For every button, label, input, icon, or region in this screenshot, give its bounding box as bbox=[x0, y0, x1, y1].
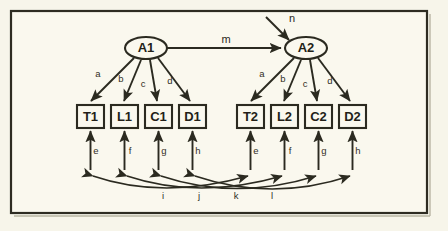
edge-label-g-left: g bbox=[161, 145, 166, 156]
edge-label-e-right: e bbox=[253, 145, 258, 156]
edge-label-f-right: f bbox=[289, 145, 292, 156]
node-label-d1: D1 bbox=[184, 109, 201, 124]
node-label-c1: C1 bbox=[150, 109, 167, 124]
edge-label-f-left: f bbox=[129, 145, 132, 156]
diagram-canvas: m n a b c d a b c d bbox=[0, 0, 448, 231]
node-label-a1: A1 bbox=[138, 40, 155, 55]
edge-label-b-right: b bbox=[280, 73, 285, 84]
path-diagram-figure: m n a b c d a b c d bbox=[0, 0, 448, 231]
edge-label-e-left: e bbox=[93, 145, 98, 156]
edge-label-h-left: h bbox=[195, 145, 200, 156]
node-label-c2: C2 bbox=[310, 109, 327, 124]
observed-node-c2[interactable]: C2 bbox=[305, 105, 332, 128]
edge-label-h-right: h bbox=[355, 145, 360, 156]
observed-node-d1[interactable]: D1 bbox=[179, 105, 206, 128]
edge-label-k: k bbox=[234, 190, 239, 201]
node-label-t1: T1 bbox=[83, 109, 98, 124]
edge-label-d-left: d bbox=[167, 75, 172, 86]
node-label-a2: A2 bbox=[298, 40, 315, 55]
observed-node-d2[interactable]: D2 bbox=[339, 105, 366, 128]
edge-label-d-right: d bbox=[327, 75, 332, 86]
edge-label-c-right: c bbox=[303, 78, 308, 89]
observed-node-t2[interactable]: T2 bbox=[237, 105, 264, 128]
latent-node-a1[interactable]: A1 bbox=[125, 37, 167, 59]
edge-label-a-right: a bbox=[259, 68, 265, 79]
node-label-l2: L2 bbox=[277, 109, 292, 124]
observed-node-l2[interactable]: L2 bbox=[271, 105, 298, 128]
edge-label-j: j bbox=[197, 190, 200, 201]
edge-label-g-right: g bbox=[321, 145, 326, 156]
edge-label-n: n bbox=[289, 12, 295, 24]
observed-node-l1[interactable]: L1 bbox=[111, 105, 138, 128]
edge-label-a-left: a bbox=[95, 68, 101, 79]
node-label-d2: D2 bbox=[344, 109, 361, 124]
edge-label-c-left: c bbox=[141, 78, 146, 89]
observed-node-t1[interactable]: T1 bbox=[77, 105, 104, 128]
node-label-t2: T2 bbox=[243, 109, 258, 124]
latent-node-a2[interactable]: A2 bbox=[285, 37, 327, 59]
edge-label-l: l bbox=[271, 190, 273, 201]
edge-label-b-left: b bbox=[118, 73, 123, 84]
node-label-l1: L1 bbox=[117, 109, 132, 124]
observed-node-c1[interactable]: C1 bbox=[145, 105, 172, 128]
edge-label-i: i bbox=[162, 190, 164, 201]
edge-label-m: m bbox=[221, 33, 230, 45]
